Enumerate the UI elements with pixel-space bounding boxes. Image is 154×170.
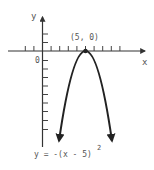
vertex-label: (5, 0)	[70, 33, 99, 42]
parabola-left-branch	[59, 51, 86, 141]
y-axis-label: y	[31, 11, 37, 21]
equation-label: y = -(x - 5)	[34, 150, 92, 159]
parabola-graph: y x 0 (5, 0) y = -(x - 5) 2	[0, 0, 154, 170]
vertex-point	[83, 49, 87, 53]
y-axis-ticks	[43, 34, 49, 130]
origin-label: 0	[35, 56, 40, 65]
parabola-right-branch	[86, 51, 113, 141]
equation-exponent: 2	[97, 144, 101, 152]
x-axis-label: x	[142, 57, 148, 67]
x-axis-ticks	[25, 46, 120, 51]
